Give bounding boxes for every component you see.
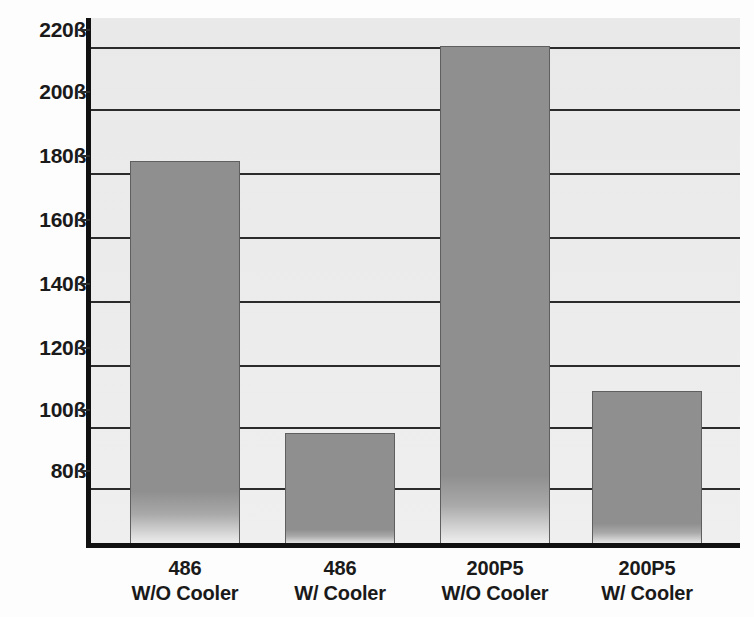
gridline-200 [90,109,740,111]
y-tick-160: 160ß [0,209,86,231]
x-label-200p5-w-cooler: 200P5 W/ Cooler [572,556,722,606]
x-label-line1: 200P5 [572,556,722,581]
y-tick-220: 220ß [0,19,86,41]
x-label-line1: 200P5 [420,556,570,581]
y-tick-mark-100 [78,409,90,411]
bar-486-w-cooler [285,433,395,546]
y-tick-mark-220 [78,29,90,31]
y-tick-140: 140ß [0,273,86,295]
y-tick-mark-80 [78,470,90,472]
y-tick-80: 80ß [0,460,86,482]
x-label-486-wo-cooler: 486 W/O Cooler [110,556,260,606]
x-label-line1: 486 [110,556,260,581]
bar-200p5-wo-cooler [440,46,550,546]
y-tick-label-200: 200ß [8,81,86,102]
x-label-line2: W/O Cooler [420,581,570,606]
x-label-line2: W/ Cooler [572,581,722,606]
y-tick-180: 180ß [0,145,86,167]
y-tick-label-180: 180ß [8,145,86,166]
y-tick-mark-140 [78,283,90,285]
y-tick-mark-160 [78,219,90,221]
x-label-line2: W/ Cooler [265,581,415,606]
y-tick-label-220: 220ß [8,19,86,40]
y-tick-100: 100ß [0,399,86,421]
y-tick-mark-200 [78,91,90,93]
y-tick-label-120: 120ß [8,337,86,358]
y-tick-120: 120ß [0,337,86,359]
bar-200p5-w-cooler [592,391,702,546]
y-tick-200: 200ß [0,81,86,103]
x-axis-line [86,543,740,548]
y-tick-mark-120 [78,347,90,349]
y-tick-label-100: 100ß [8,399,86,420]
bar-chart: 220ß 200ß 180ß 160ß 140ß 120ß 100ß 80ß 4… [0,0,754,617]
x-label-486-w-cooler: 486 W/ Cooler [265,556,415,606]
y-tick-mark-180 [78,155,90,157]
y-tick-label-80: 80ß [8,460,86,481]
y-tick-label-140: 140ß [8,273,86,294]
x-label-200p5-wo-cooler: 200P5 W/O Cooler [420,556,570,606]
x-label-line2: W/O Cooler [110,581,260,606]
bar-486-wo-cooler [130,161,240,546]
x-label-line1: 486 [265,556,415,581]
gridline-220 [90,47,740,49]
y-tick-label-160: 160ß [8,209,86,230]
